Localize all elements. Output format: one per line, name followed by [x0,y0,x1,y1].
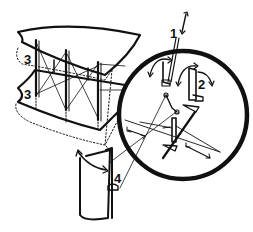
label-3-lower: 3 [24,88,31,101]
lower-wing [18,70,125,130]
rudder [80,150,110,219]
label-3-upper: 3 [24,53,31,66]
label-1: 1 [170,27,177,40]
label-2: 2 [198,78,205,91]
biplane-control-diagram [0,0,253,232]
label-4: 4 [114,172,121,185]
